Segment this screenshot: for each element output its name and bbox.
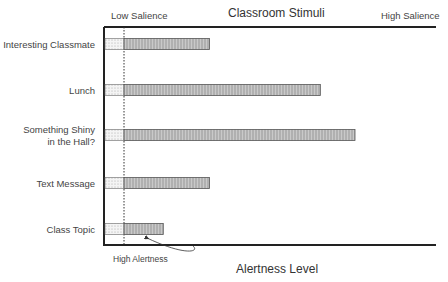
category-label: Text Message bbox=[36, 178, 95, 189]
bar-baseline-segment bbox=[105, 178, 124, 189]
category-label: in the Hall? bbox=[47, 136, 95, 147]
bar bbox=[124, 178, 209, 189]
salience-diagram: Low Salience Classroom Stimuli High Sali… bbox=[0, 0, 448, 282]
bar-baseline-segment bbox=[105, 224, 124, 235]
annotation-label: High Alertness bbox=[113, 254, 168, 264]
bar bbox=[124, 85, 320, 96]
category-label: Interesting Classmate bbox=[3, 39, 95, 50]
bar bbox=[124, 130, 355, 141]
x-axis-label: Alertness Level bbox=[236, 262, 318, 276]
high-salience-label: High Salience bbox=[381, 10, 440, 21]
bar-baseline-segment bbox=[105, 85, 124, 96]
category-label: Lunch bbox=[69, 85, 95, 96]
chart-title: Classroom Stimuli bbox=[228, 6, 325, 20]
low-salience-label: Low Salience bbox=[111, 10, 168, 21]
bar-baseline-segment bbox=[105, 130, 124, 141]
category-label: Class Topic bbox=[47, 224, 96, 235]
bar bbox=[124, 224, 163, 235]
bar bbox=[124, 39, 209, 50]
bar-baseline-segment bbox=[105, 39, 124, 50]
category-label: Something Shiny bbox=[23, 124, 95, 135]
